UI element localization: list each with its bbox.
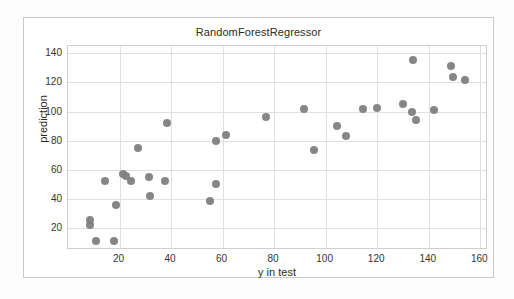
- scatter-point: [163, 119, 171, 127]
- scatter-point: [408, 108, 416, 116]
- figure-frame: RandomForestRegressor prediction 2040608…: [23, 17, 494, 278]
- scatter-point: [112, 201, 120, 209]
- gridline-horizontal: [68, 170, 486, 171]
- y-axis-tick-label: 60: [28, 163, 62, 174]
- gridline-horizontal: [68, 112, 486, 113]
- y-axis-tick-label: 140: [28, 47, 62, 58]
- gridline-horizontal: [68, 228, 486, 229]
- x-axis-tick-label: 140: [408, 253, 448, 264]
- gridline-vertical: [223, 46, 224, 248]
- x-axis-tick-label: 160: [459, 253, 499, 264]
- scatter-point: [92, 237, 100, 245]
- scatter-point: [161, 177, 169, 185]
- scatter-point: [222, 131, 230, 139]
- scatter-point: [262, 113, 270, 121]
- plot-area: [67, 45, 487, 249]
- gridline-vertical: [120, 46, 121, 248]
- gridline-horizontal: [68, 53, 486, 54]
- x-axis-tick-label: 80: [253, 253, 293, 264]
- gridline-horizontal: [68, 199, 486, 200]
- scatter-point: [461, 76, 469, 84]
- y-axis-tick-label: 120: [28, 76, 62, 87]
- scatter-point: [412, 116, 420, 124]
- gridline-horizontal: [68, 82, 486, 83]
- x-axis-title: y in test: [67, 266, 487, 278]
- gridline-horizontal: [68, 141, 486, 142]
- gridline-vertical: [171, 46, 172, 248]
- y-axis-tick-labels: 20406080100120140: [24, 45, 62, 249]
- scatter-point: [300, 105, 308, 113]
- scatter-point: [409, 56, 417, 64]
- scatter-point: [333, 122, 341, 130]
- scatter-point: [134, 144, 142, 152]
- chart-title: RandomForestRegressor: [24, 26, 493, 38]
- scatter-point: [399, 100, 407, 108]
- x-axis-tick-label: 120: [356, 253, 396, 264]
- scatter-point: [127, 177, 135, 185]
- scatter-point: [110, 237, 118, 245]
- y-axis-tick-label: 100: [28, 105, 62, 116]
- scatter-point: [212, 137, 220, 145]
- scatter-point: [206, 197, 214, 205]
- scatter-point: [212, 180, 220, 188]
- y-axis-tick-label: 80: [28, 134, 62, 145]
- scatter-point: [359, 105, 367, 113]
- scatter-point: [449, 73, 457, 81]
- x-axis-tick-label: 60: [202, 253, 242, 264]
- scatter-point: [430, 106, 438, 114]
- scatter-point: [342, 132, 350, 140]
- x-axis-tick-label: 40: [150, 253, 190, 264]
- gridline-vertical: [274, 46, 275, 248]
- scatter-point: [310, 146, 318, 154]
- page-root: RandomForestRegressor prediction 2040608…: [0, 0, 514, 299]
- gridline-vertical: [377, 46, 378, 248]
- y-axis-tick-label: 40: [28, 193, 62, 204]
- scatter-point: [101, 177, 109, 185]
- gridline-vertical: [429, 46, 430, 248]
- y-axis-tick-label: 20: [28, 222, 62, 233]
- x-axis-tick-label: 100: [305, 253, 345, 264]
- gridline-vertical: [480, 46, 481, 248]
- scatter-point: [447, 62, 455, 70]
- x-axis-tick-label: 20: [99, 253, 139, 264]
- gridline-vertical: [326, 46, 327, 248]
- scatter-point: [145, 173, 153, 181]
